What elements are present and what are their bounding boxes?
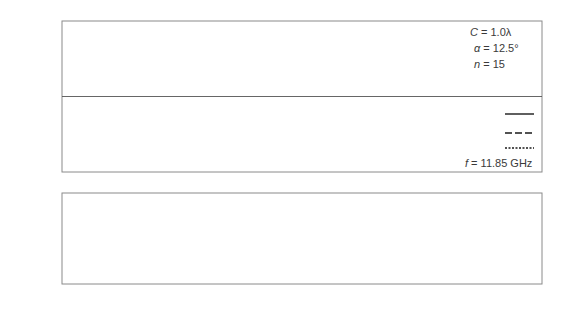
param-n: n = 15: [474, 58, 505, 70]
current-plot: C = 1.0λ α = 12.5° n = 15 f: [0, 0, 542, 172]
param-c: C = 1.0λ: [470, 26, 512, 38]
legend-item-ii: [0, 0, 534, 133]
phase-plot-frame: [62, 193, 542, 284]
phase-plot: [62, 193, 542, 284]
chart-figure: C = 1.0λ α = 12.5° n = 15 f: [0, 0, 567, 328]
legend: [0, 0, 534, 148]
param-annotations: C = 1.0λ α = 12.5° n = 15: [470, 26, 519, 70]
param-alpha: α = 12.5°: [474, 42, 519, 54]
frequency-label: f = 11.85 GHz: [465, 157, 532, 169]
